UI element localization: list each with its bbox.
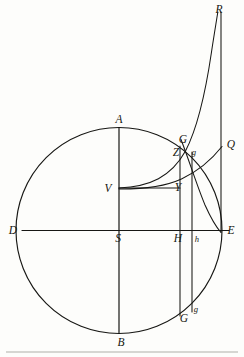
figure-container: R A G Q Z g V Y D E S H h g G B (0, 0, 244, 357)
label-g-lower: g (194, 304, 199, 314)
label-G-lower: G (180, 312, 189, 324)
label-G-upper: G (179, 133, 188, 145)
label-Y: Y (175, 181, 183, 193)
label-g-upper: g (192, 147, 197, 157)
label-D: D (8, 224, 18, 236)
curve-V-Z-R (119, 12, 218, 188)
label-V: V (104, 182, 113, 194)
curve-V-Y-Q (119, 147, 222, 190)
label-Q: Q (227, 138, 236, 150)
label-B: B (117, 336, 124, 348)
label-A: A (114, 113, 123, 125)
label-H: H (173, 232, 183, 244)
geometry-diagram: R A G Q Z g V Y D E S H h g G B (0, 0, 244, 357)
label-E: E (226, 224, 234, 236)
label-h: h (195, 234, 199, 244)
label-R: R (214, 3, 222, 15)
label-Z: Z (173, 146, 180, 158)
label-S: S (115, 232, 121, 244)
